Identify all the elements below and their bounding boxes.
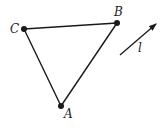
segment-ac: [24, 29, 61, 106]
label-a: A: [63, 107, 73, 121]
triangle-diagram: C B A l: [0, 0, 165, 128]
label-b: B: [113, 5, 123, 19]
segment-cb: [24, 23, 117, 29]
label-c: C: [10, 22, 19, 36]
point-b: [114, 20, 120, 26]
point-c: [21, 26, 27, 32]
label-vector-l: l: [138, 41, 142, 55]
segment-ba: [61, 23, 117, 106]
